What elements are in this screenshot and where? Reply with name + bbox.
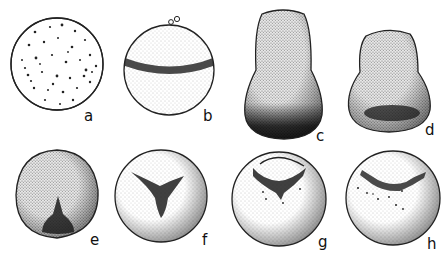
pigment-speckles-icon (21, 24, 97, 105)
pigment-band-d (364, 105, 420, 121)
panel-c: c (245, 10, 325, 145)
label-d: d (425, 121, 435, 139)
label-e: e (90, 231, 99, 249)
label-b: b (203, 107, 213, 125)
panel-e: e (16, 150, 99, 249)
label-a: a (84, 107, 93, 125)
panel-d: d (348, 30, 434, 139)
label-h: h (427, 235, 437, 253)
panel-a: a (11, 18, 103, 125)
panel-g: g (232, 152, 328, 251)
label-g: g (318, 233, 328, 251)
label-c: c (316, 127, 324, 145)
panel-f: f (115, 150, 208, 249)
embryo-stage-figure: a b c d e f (0, 0, 444, 254)
polar-body-icon (169, 16, 180, 24)
label-f: f (202, 231, 208, 249)
panel-h: h (346, 151, 440, 253)
panel-b: b (124, 16, 214, 125)
